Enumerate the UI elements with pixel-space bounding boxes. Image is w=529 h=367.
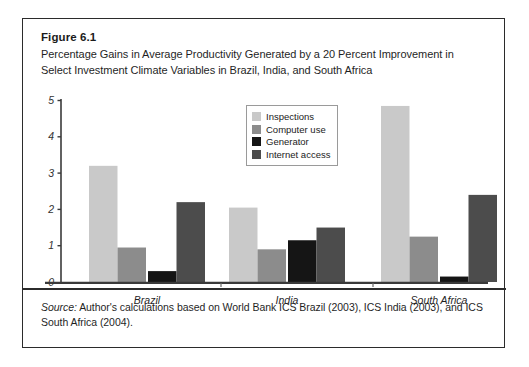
bar-south-africa-generator	[440, 277, 469, 282]
legend-label: Inspections	[266, 111, 314, 122]
figure-frame: Figure 6.1 Percentage Gains in Average P…	[22, 18, 505, 348]
legend-label: Generator	[266, 136, 309, 147]
legend-swatch-icon	[252, 112, 261, 121]
bar-south-africa-internet-access	[469, 195, 498, 282]
chart-legend: InspectionsComputer useGeneratorInternet…	[246, 105, 338, 166]
bar-south-africa-computer-use	[410, 237, 439, 282]
legend-swatch-icon	[252, 137, 261, 146]
legend-swatch-icon	[252, 150, 261, 159]
legend-swatch-icon	[252, 125, 261, 134]
y-axis-tick-labels: 012345	[47, 94, 54, 288]
source-label: Source:	[41, 301, 77, 313]
bar-brazil-computer-use	[118, 248, 147, 282]
bar-south-africa-inspections	[381, 106, 410, 282]
y-axis-tick-0: 0	[48, 276, 54, 288]
bar-india-generator	[288, 240, 317, 282]
y-axis-tick-3: 3	[48, 167, 54, 179]
y-axis-tick-4: 4	[48, 130, 54, 142]
bar-brazil-internet-access	[177, 202, 206, 282]
y-axis-tick-2: 2	[47, 203, 54, 215]
bar-brazil-inspections	[89, 166, 118, 282]
legend-item-generator: Generator	[252, 136, 330, 148]
legend-label: Internet access	[266, 149, 330, 160]
legend-label: Computer use	[266, 124, 326, 135]
legend-item-internet-access: Internet access	[252, 148, 330, 160]
legend-item-computer-use: Computer use	[252, 123, 330, 135]
y-axis-tick-5: 5	[48, 94, 54, 106]
source-divider	[23, 288, 506, 290]
source-note: Source: Author's calculations based on W…	[41, 300, 488, 330]
bar-brazil-generator	[148, 271, 177, 282]
bar-india-computer-use	[258, 249, 287, 282]
source-text: Author's calculations based on World Ban…	[41, 301, 483, 328]
legend-item-inspections: Inspections	[252, 111, 330, 123]
bar-india-internet-access	[317, 228, 346, 282]
bar-india-inspections	[229, 208, 258, 282]
y-axis-tick-1: 1	[48, 239, 54, 251]
